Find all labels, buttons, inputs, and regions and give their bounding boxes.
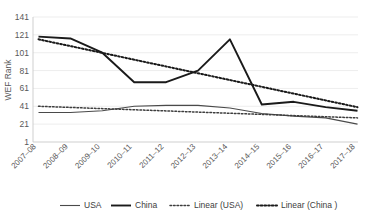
y-tick-101: 101 bbox=[15, 48, 29, 58]
x-tick-7: 2014–15 bbox=[233, 142, 262, 171]
line-chart: 141 121 101 81 61 41 21 1 WEF Rank 2007–… bbox=[0, 0, 366, 222]
x-tick-1: 2008–09 bbox=[41, 142, 70, 171]
x-tick-3: 2010–11 bbox=[106, 142, 134, 170]
x-tick-8: 2015–16 bbox=[265, 142, 294, 171]
y-tick-61: 61 bbox=[20, 83, 30, 93]
legend-label-linear-usa: Linear (USA) bbox=[194, 200, 243, 210]
legend-item-linear-china[interactable]: Linear (China ) bbox=[257, 200, 337, 210]
series-line-usa bbox=[39, 105, 358, 124]
y-tick-141: 141 bbox=[15, 12, 29, 22]
x-tick-2: 2009–10 bbox=[73, 142, 102, 171]
legend-label-china: China bbox=[135, 200, 157, 210]
y-tick-81: 81 bbox=[20, 66, 30, 76]
x-tick-9: 2016–17 bbox=[297, 142, 326, 171]
legend-item-usa[interactable]: USA bbox=[60, 200, 102, 210]
y-tick-21: 21 bbox=[20, 119, 30, 129]
y-tick-labels: 141 121 101 81 61 41 21 1 bbox=[15, 12, 29, 147]
x-tick-5: 2012–13 bbox=[169, 142, 198, 171]
chart-container: 141 121 101 81 61 41 21 1 WEF Rank 2007–… bbox=[0, 0, 366, 222]
legend-label-linear-china: Linear (China ) bbox=[281, 200, 337, 210]
legend-item-linear-usa[interactable]: Linear (USA) bbox=[170, 200, 243, 210]
x-tick-labels: 2007–08 2008–09 2009–10 2010–11 2011–12 … bbox=[10, 142, 358, 171]
y-tick-121: 121 bbox=[15, 30, 29, 40]
trendline-china bbox=[39, 39, 358, 107]
legend-item-china[interactable]: China bbox=[111, 200, 157, 210]
legend-label-usa: USA bbox=[84, 200, 102, 210]
x-tick-4: 2011–12 bbox=[138, 142, 166, 170]
y-axis-title: WEF Rank bbox=[3, 59, 13, 101]
x-tick-10: 2017–18 bbox=[329, 142, 358, 171]
x-tick-6: 2013–14 bbox=[201, 142, 230, 171]
y-tick-41: 41 bbox=[20, 101, 30, 111]
chart-legend: USA China Linear (USA) Linear (China ) bbox=[60, 200, 337, 210]
